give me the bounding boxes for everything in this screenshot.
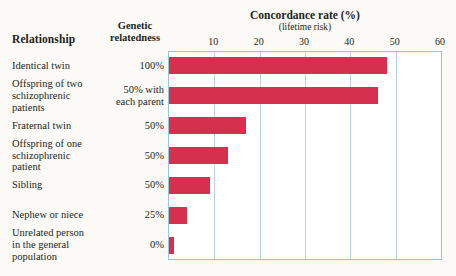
row-label-line: Sibling [12, 179, 104, 191]
row-label: Offspring of oneschizophrenicpatient [12, 138, 104, 173]
tick-label-20: 20 [244, 36, 274, 47]
row-label: Nephew or niece [12, 209, 104, 221]
row-label-line: Fraternal twin [12, 120, 104, 132]
chart-title: Concordance rate (%) [168, 9, 442, 21]
tick-label-10: 10 [198, 36, 228, 47]
row-genetic-relatedness: 50% witheach parent [100, 84, 164, 108]
row-label: Identical twin [12, 60, 104, 72]
tick-label-50: 50 [380, 36, 410, 47]
gridline-40 [350, 52, 351, 259]
row-label-line: schizophrenic [12, 90, 104, 102]
column-header-genetic-relatedness: Genetic relatedness [104, 20, 166, 43]
row-label-line: Unrelated person [12, 227, 104, 239]
row-genetic-relatedness-line: 50% with [100, 84, 164, 96]
row-genetic-relatedness-line: each parent [100, 96, 164, 108]
row-label-line: patient [12, 161, 104, 173]
row-label-line: in the general [12, 239, 104, 251]
row-label: Fraternal twin [12, 120, 104, 132]
chart-subtitle: (lifetime risk) [168, 22, 442, 32]
gridline-30 [305, 52, 306, 259]
row-genetic-relatedness: 0% [100, 239, 164, 251]
row-genetic-relatedness: 50% [100, 150, 164, 162]
bar [169, 147, 228, 164]
bar [169, 57, 387, 74]
bar [169, 207, 187, 224]
row-genetic-relatedness: 25% [100, 209, 164, 221]
row-label-line: Nephew or niece [12, 209, 104, 221]
column-header-relationship: Relationship [12, 33, 75, 45]
row-genetic-relatedness: 100% [100, 60, 164, 72]
gridline-20 [260, 52, 261, 259]
row-genetic-relatedness-line: 100% [100, 60, 164, 72]
row-genetic-relatedness-line: 50% [100, 120, 164, 132]
bar [169, 87, 378, 104]
row-label-line: Identical twin [12, 60, 104, 72]
bar [169, 117, 246, 134]
row-label-line: Offspring of two [12, 78, 104, 90]
row-label-line: patients [12, 102, 104, 114]
row-genetic-relatedness: 50% [100, 120, 164, 132]
row-label-line: population [12, 251, 104, 263]
tick-label-30: 30 [289, 36, 319, 47]
row-label: Sibling [12, 179, 104, 191]
column-header-genetic-relatedness-line2: relatedness [104, 32, 166, 44]
concordance-rate-chart: Relationship Genetic relatedness Concord… [0, 0, 456, 276]
bar [169, 237, 174, 254]
row-genetic-relatedness-line: 50% [100, 179, 164, 191]
tick-label-40: 40 [334, 36, 364, 47]
row-genetic-relatedness-line: 0% [100, 239, 164, 251]
row-genetic-relatedness: 50% [100, 179, 164, 191]
row-genetic-relatedness-line: 25% [100, 209, 164, 221]
gridline-50 [396, 52, 397, 259]
bar [169, 177, 210, 194]
column-header-genetic-relatedness-line1: Genetic [104, 20, 166, 32]
row-label-line: Offspring of one [12, 138, 104, 150]
row-label-line: schizophrenic [12, 150, 104, 162]
row-label: Offspring of twoschizophrenicpatients [12, 78, 104, 113]
row-label: Unrelated personin the generalpopulation [12, 227, 104, 262]
tick-label-60: 60 [425, 36, 455, 47]
row-genetic-relatedness-line: 50% [100, 150, 164, 162]
